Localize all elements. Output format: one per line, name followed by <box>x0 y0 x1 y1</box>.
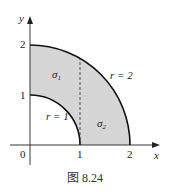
curve-r1-label: r = 1 <box>46 110 69 122</box>
polar-region-diagram: y x 0 1 2 1 2 σ1 σ2 r = 1 r = 2 <box>0 0 170 192</box>
y-tick-2: 2 <box>20 38 26 50</box>
y-axis-arrow-icon <box>27 16 33 24</box>
x-axis-label: x <box>153 149 159 161</box>
figure-caption: 图 8.24 <box>0 168 170 186</box>
x-tick-1: 1 <box>77 148 83 160</box>
y-tick-1: 1 <box>20 89 26 101</box>
x-tick-2: 2 <box>127 148 133 160</box>
curve-r2-label: r = 2 <box>110 69 133 81</box>
y-axis-label: y <box>18 12 24 24</box>
origin-label: 0 <box>20 148 26 160</box>
x-axis-arrow-icon <box>152 142 160 148</box>
